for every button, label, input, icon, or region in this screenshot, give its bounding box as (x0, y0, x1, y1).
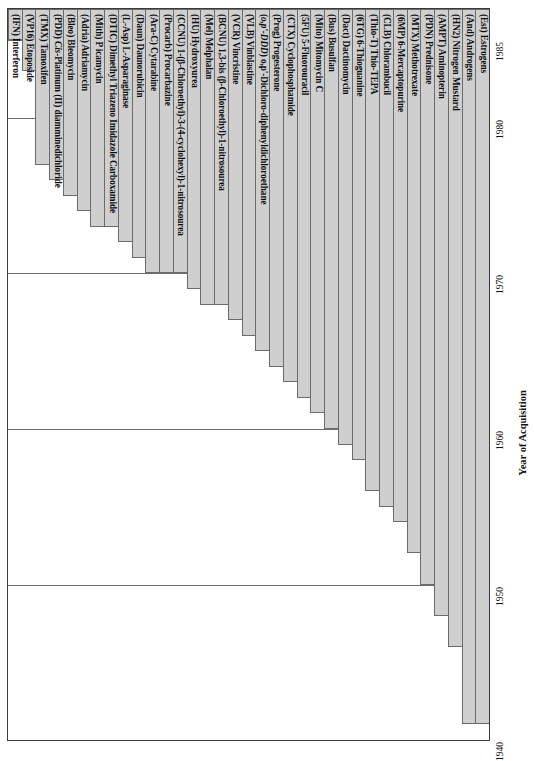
bar-18: (o,p'-DDD) o,p'-Dichloro-diphenyldichlor… (255, 9, 270, 351)
bar-1: (VP16) Etoposide (22, 9, 37, 71)
bar-label-31: (AMPT) Aminopterin (437, 14, 446, 99)
bar-label-20: (CTX) Cyclophosphamide (286, 14, 295, 116)
bar-4: (Bleo) Bleomycin (63, 9, 78, 196)
bar-30: (PDN) Prednisone (420, 9, 435, 585)
bar-2: (TMX) Tamoxifen (35, 9, 50, 165)
year-tick-label-1980: 1980 (495, 120, 505, 139)
bar-label-12: (CCNU) 1-(β-Chloroethyl)-3-(4-cyclohexyl… (176, 14, 185, 236)
bar-label-18: (o,p'-DDD) o,p'-Dichloro-diphenyldichlor… (258, 14, 267, 204)
bar-31: (AMPT) Aminopterin (434, 9, 449, 616)
bar-label-22: (Mito) Mitomycin C (313, 14, 322, 92)
bar-label-3: (PDD) Cis-Platinum (II) diamminedichlori… (52, 14, 61, 188)
bar-21: (5FU) 5-Fluorouracil (297, 9, 312, 398)
bar-20: (CTX) Cyclophosphamide (283, 9, 298, 382)
bar-label-4: (Bleo) Bleomycin (66, 14, 75, 80)
bar-32: (HN2) Nitrogen Mustard (448, 9, 463, 647)
bar-label-29: (MTX) Methotrexate (409, 14, 418, 96)
bar-23: (Bus) Busulfan (324, 9, 339, 429)
bar-label-33: (And) Androgens (464, 14, 473, 81)
bar-label-8: (L-Asp) L-Asparaginase (121, 14, 130, 108)
bar-label-17: (VLB) Vinblastine (244, 14, 253, 85)
bar-label-15: (BCNU) 1,3-bis (β-Chloroethyl)-1-nitroso… (217, 14, 226, 191)
bar-label-9: (Daun) Daunorubicin (134, 14, 143, 98)
gridline-1940 (8, 740, 489, 741)
bar-label-28: (6MP) 6-Mercaptopurine (396, 14, 405, 112)
bar-label-1: (VP16) Etoposide (24, 14, 33, 82)
bar-5: (Adria) Adriamycin (77, 9, 92, 211)
bar-15: (BCNU) 1,3-bis (β-Chloroethyl)-1-nitroso… (214, 9, 229, 305)
bar-10: (Ara-C) Cytarabine (145, 9, 160, 273)
bar-7: (DTIC) Dimethyl Triazeno Imidazole Carbo… (104, 9, 119, 227)
bar-label-34: (Est) Estrogens (478, 14, 487, 73)
bar-13: (HU) Hydroxyurea (187, 9, 202, 289)
bar-12: (CCNU) 1-(β-Chloroethyl)-3-(4-cyclohexyl… (173, 9, 188, 273)
bar-label-6: (Mith) P icamycin (93, 14, 102, 84)
bar-14: (Mel) Melphalan (200, 9, 215, 305)
bar-19: (Prog) Progesterone (269, 9, 284, 367)
bar-label-14: (Mel) Melphalan (203, 14, 212, 79)
bar-label-11: (Procarb) Procarbazine (162, 14, 171, 106)
bar-label-23: (Bus) Busulfan (327, 14, 336, 72)
bar-label-16: (VCR) Vincristine (231, 14, 240, 84)
bar-3: (PDD) Cis-Platinum (II) diamminedichlori… (49, 9, 64, 180)
year-tick-label-1950: 1950 (495, 587, 505, 606)
bar-label-30: (PDN) Prednisone (423, 14, 432, 84)
bar-label-21: (5FU) 5-Fluorouracil (299, 14, 308, 95)
bar-25: (6TG) 6-Thioguanine (352, 9, 367, 460)
bar-0: (IFN) Interferon (8, 9, 23, 40)
plot-area: (IFN) Interferon(VP16) Etoposide(TMX) Ta… (7, 8, 490, 741)
bar-27: (CLB) Chlorambucil (379, 9, 394, 507)
bar-33: (And) Androgens (462, 9, 477, 724)
year-tick-label-1940: 1940 (495, 742, 505, 761)
bar-label-24: (Dact) Dactinomycin (341, 14, 350, 94)
bar-label-26: (Thio-T) Thio-TEPA (368, 14, 377, 94)
bar-label-32: (HN2) Nitrogen Mustard (450, 14, 459, 111)
bar-29: (MTX) Methotrexate (407, 9, 422, 553)
bar-label-2: (TMX) Tamoxifen (38, 14, 47, 85)
bar-label-25: (6TG) 6-Thioguanine (354, 14, 363, 97)
bar-label-19: (Prog) Progesterone (272, 14, 281, 91)
bar-label-5: (Adria) Adriamycin (79, 14, 88, 91)
gridline-1950 (8, 585, 489, 586)
year-tick-label-1970: 1970 (495, 275, 505, 294)
axis-title-year-of-acquisition: Year of Acquisition (517, 390, 528, 476)
year-tick-label-1985: 1985 (495, 42, 505, 61)
bar-9: (Daun) Daunorubicin (132, 9, 147, 258)
bar-11: (Procarb) Procarbazine (159, 9, 174, 273)
year-tick-label-1960: 1960 (495, 431, 505, 450)
bar-28: (6MP) 6-Mercaptopurine (393, 9, 408, 522)
bar-label-10: (Ara-C) Cytarabine (148, 14, 157, 91)
bar-label-7: (DTIC) Dimethyl Triazeno Imidazole Carbo… (107, 14, 116, 213)
bar-label-27: (CLB) Chlorambucil (382, 14, 391, 95)
bar-22: (Mito) Mitomycin C (310, 9, 325, 413)
bar-24: (Dact) Dactinomycin (338, 9, 353, 445)
bar-34: (Est) Estrogens (475, 9, 490, 724)
bar-label-13: (HU) Hydroxyurea (189, 14, 198, 88)
bar-8: (L-Asp) L-Asparaginase (118, 9, 133, 242)
bar-label-0: (IFN) Interferon (11, 14, 20, 78)
bar-26: (Thio-T) Thio-TEPA (365, 9, 380, 491)
bar-6: (Mith) P icamycin (90, 9, 105, 227)
bar-17: (VLB) Vinblastine (242, 9, 257, 336)
bar-16: (VCR) Vincristine (228, 9, 243, 320)
